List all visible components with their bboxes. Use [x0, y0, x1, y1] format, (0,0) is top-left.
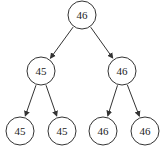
- node-label: 45: [15, 125, 27, 137]
- nodes-group: 46454645454646: [6, 1, 159, 145]
- edge-arrow-left-to-left-right: [46, 85, 57, 116]
- edge-arrow-right-to-right-left: [108, 85, 118, 115]
- edge-arrow-root-to-right: [91, 27, 113, 58]
- node-label: 46: [140, 125, 152, 137]
- tree-node-right: 46: [108, 57, 136, 85]
- node-label: 46: [77, 9, 89, 21]
- tree-diagram: 46454645454646: [0, 0, 162, 167]
- edge-arrow-right-to-right-right: [127, 85, 139, 116]
- tree-node-left-left: 45: [6, 117, 34, 145]
- node-label: 45: [36, 65, 48, 77]
- tree-node-right-left: 46: [89, 117, 117, 145]
- node-label: 45: [57, 125, 69, 137]
- edge-arrow-root-to-left: [51, 27, 74, 58]
- edge-arrow-left-to-left-left: [25, 85, 36, 116]
- tree-node-root: 46: [68, 1, 96, 29]
- tree-svg: 46454645454646: [0, 0, 162, 167]
- node-label: 46: [117, 65, 129, 77]
- tree-node-right-right: 46: [131, 117, 159, 145]
- node-label: 46: [98, 125, 110, 137]
- tree-node-left: 45: [27, 57, 55, 85]
- tree-node-left-right: 45: [48, 117, 76, 145]
